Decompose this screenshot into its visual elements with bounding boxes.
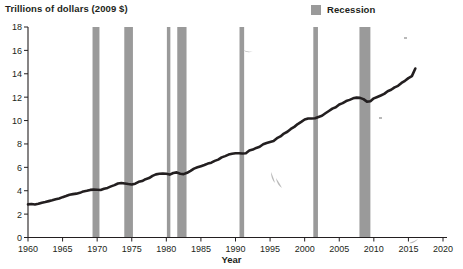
x-tick-label: 2010 <box>364 244 384 254</box>
x-tick-label: 1995 <box>260 244 280 254</box>
x-tick-label: 1990 <box>225 244 245 254</box>
recession-band <box>124 27 133 238</box>
x-axis-title: Year <box>0 254 463 265</box>
x-tick-label: 1970 <box>87 244 107 254</box>
recession-band <box>177 27 186 238</box>
x-tick-label: 1985 <box>191 244 211 254</box>
y-tick-label: 8 <box>17 139 22 149</box>
gdp-recession-chart: Trillions of dollars (2009 $) Recession … <box>0 0 463 269</box>
y-tick-label: 16 <box>12 46 22 56</box>
x-tick-label: 2015 <box>398 244 418 254</box>
x-tick-label: 1965 <box>53 244 73 254</box>
y-tick-label: 10 <box>12 116 22 126</box>
x-tick-label: 2000 <box>295 244 315 254</box>
recession-band <box>240 27 245 238</box>
y-tick-label: 0 <box>17 233 22 243</box>
x-tick-label: 1960 <box>18 244 38 254</box>
scan-artifacts <box>243 37 418 243</box>
tick-labels: 0246810121416181960196519701975198019851… <box>12 22 453 253</box>
recession-band <box>359 27 370 238</box>
y-tick-label: 4 <box>17 186 22 196</box>
y-tick-label: 14 <box>12 69 22 79</box>
y-tick-label: 12 <box>12 93 22 103</box>
recession-bands <box>93 27 371 238</box>
recession-band <box>167 27 170 238</box>
gdp-line-series <box>28 69 415 205</box>
x-tick-label: 2020 <box>433 244 453 254</box>
x-tick-label: 1975 <box>122 244 142 254</box>
x-tick-label: 1980 <box>156 244 176 254</box>
axes <box>24 27 447 242</box>
recession-band <box>93 27 100 238</box>
y-tick-label: 2 <box>17 210 22 220</box>
y-tick-label: 18 <box>12 22 22 32</box>
y-tick-label: 6 <box>17 163 22 173</box>
recession-band <box>313 27 318 238</box>
x-tick-label: 2005 <box>329 244 349 254</box>
plot-area: 0246810121416181960196519701975198019851… <box>0 0 463 269</box>
